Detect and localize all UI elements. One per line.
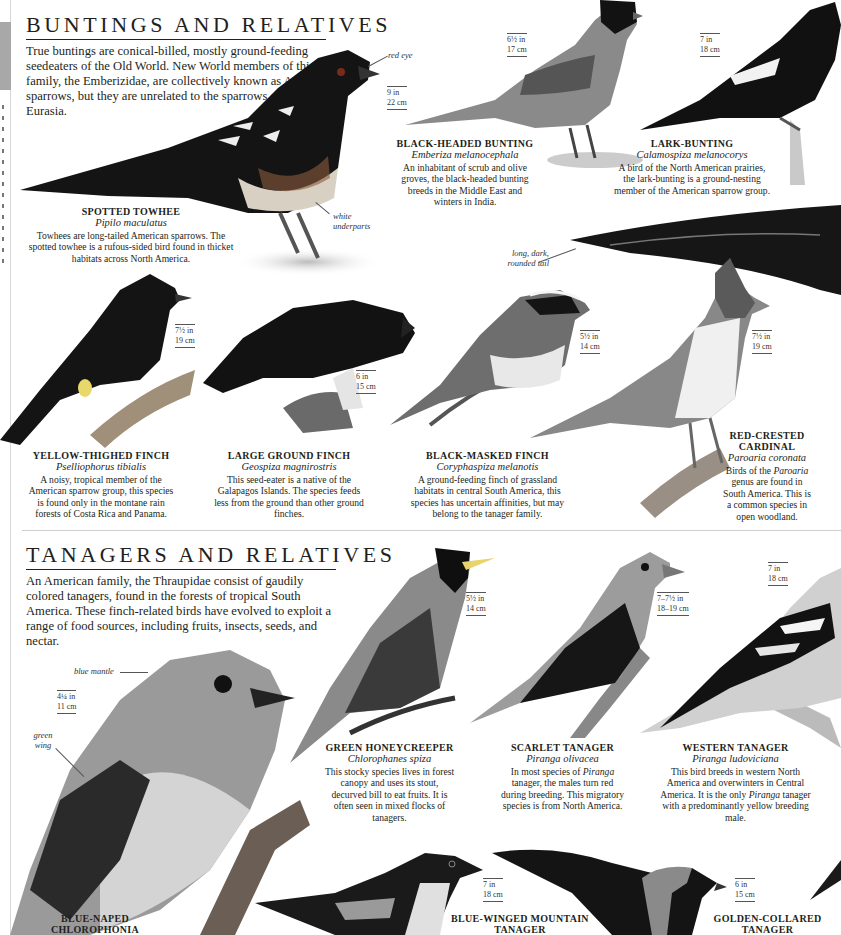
caption-lark-bunting: LARK-BUNTING Calamospiza melanocorys A b…: [612, 138, 772, 196]
section-divider: [22, 530, 841, 531]
species-name: SCARLET TANAGER: [500, 742, 625, 753]
species-name: YELLOW-THIGHED FINCH: [26, 450, 176, 461]
species-latin: Emberiza melanocephala: [395, 149, 535, 161]
annotation-green-wing: green wing: [33, 730, 53, 750]
size-marker-yellow-thighed-finch: 7½ in 19 cm: [175, 324, 195, 348]
caption-red-crested-cardinal: RED-CRESTED CARDINAL Paroaria coronata B…: [722, 430, 812, 522]
species-name: SPOTTED TOWHEE: [26, 206, 236, 217]
species-latin: Geospiza magnirostris: [214, 461, 364, 473]
species-name: LARGE GROUND FINCH: [214, 450, 364, 461]
species-latin: Piranga ludoviciana: [658, 753, 813, 765]
species-desc: This bird breeds in western North Americ…: [658, 766, 813, 823]
species-latin: Calamospiza melanocorys: [612, 149, 772, 161]
size-marker-lark-bunting: 7 in 18 cm: [700, 33, 720, 57]
caption-blue-naped-chlorophonia: BLUE-NAPED CHLOROPHONIA: [30, 913, 160, 935]
species-name: RED-CRESTED CARDINAL: [722, 430, 812, 452]
species-latin: Chlorophanes spiza: [322, 753, 457, 765]
section-title-buntings: BUNTINGS AND RELATIVES: [26, 12, 326, 40]
size-marker-golden-collared-tanager: 6 in 15 cm: [735, 878, 755, 902]
large-ground-finch-illustration: [203, 298, 415, 438]
species-name: BLUE-NAPED CHLOROPHONIA: [30, 913, 160, 935]
caption-large-ground-finch: LARGE GROUND FINCH Geospiza magnirostris…: [214, 450, 364, 520]
leader-line: [120, 672, 148, 673]
species-desc: A bird of the North American prairies, t…: [612, 162, 772, 196]
species-name: GOLDEN-COLLARED TANAGER: [710, 913, 825, 935]
species-name: WESTERN TANAGER: [658, 742, 813, 753]
annotation-blue-mantle: blue mantle: [74, 666, 114, 676]
size-marker-large-ground-finch: 6 in 15 cm: [356, 370, 376, 394]
green-honeycreeper-illustration: [290, 548, 495, 763]
species-name: BLACK-HEADED BUNTING: [395, 138, 535, 149]
caption-black-headed-bunting: BLACK-HEADED BUNTING Emberiza melanoceph…: [395, 138, 535, 208]
species-desc: A noisy, tropical member of the American…: [26, 474, 176, 520]
species-desc: Birds of the Paroaria genus are found in…: [722, 465, 812, 522]
caption-golden-collared-tanager: GOLDEN-COLLARED TANAGER: [710, 913, 825, 935]
size-marker-western-tanager: 7 in 18 cm: [768, 562, 788, 586]
yellow-thighed-finch-illustration: [0, 270, 195, 450]
caption-spotted-towhee: SPOTTED TOWHEE Pipilo maculatus Towhees …: [26, 206, 236, 264]
species-latin: Pselliophorus tibialis: [26, 461, 176, 473]
species-desc: This stocky species lives in forest cano…: [322, 766, 457, 823]
size-marker-black-headed-bunting: 6½ in 17 cm: [507, 33, 527, 57]
species-desc: In most species of Piranga tanager, the …: [500, 766, 625, 812]
size-marker-red-crested-cardinal: 7½ in 19 cm: [752, 330, 772, 354]
species-desc: An inhabitant of scrub and olive groves,…: [395, 162, 535, 208]
species-name: LARK-BUNTING: [612, 138, 772, 149]
caption-western-tanager: WESTERN TANAGER Piranga ludoviciana This…: [658, 742, 813, 823]
species-latin: Paroaria coronata: [722, 452, 812, 464]
species-latin: Pipilo maculatus: [26, 217, 236, 229]
western-tanager-illustration: [640, 548, 841, 748]
caption-yellow-thighed-finch: YELLOW-THIGHED FINCH Pselliophorus tibia…: [26, 450, 176, 520]
annotation-white-underparts: white underparts: [333, 211, 378, 231]
species-latin: Piranga olivacea: [500, 753, 625, 765]
caption-green-honeycreeper: GREEN HONEYCREEPER Chlorophanes spiza Th…: [322, 742, 457, 823]
species-desc: Towhees are long-tailed American sparrow…: [26, 230, 236, 264]
caption-scarlet-tanager: SCARLET TANAGER Piranga olivacea In most…: [500, 742, 625, 812]
partial-bird-illustration: [810, 860, 841, 900]
chapter-tab: [0, 22, 11, 90]
species-name: GREEN HONEYCREEPER: [322, 742, 457, 753]
species-desc: This seed-eater is a native of the Galap…: [214, 474, 364, 520]
size-marker-blue-naped-chlorophonia: 4¼ in 11 cm: [57, 690, 76, 714]
size-marker-spotted-towhee: 9 in 22 cm: [387, 86, 407, 110]
golden-collared-tanager-illustration: [492, 843, 727, 935]
